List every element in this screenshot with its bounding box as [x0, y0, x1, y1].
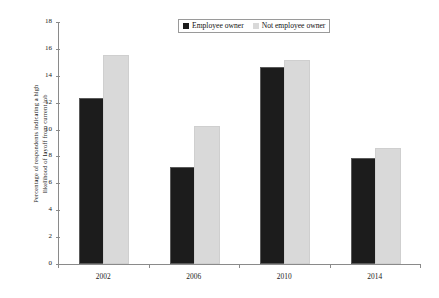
x-axis-label-2006: 2006 — [186, 272, 201, 281]
y-axis-tick-label: 4 — [49, 205, 53, 213]
legend-item-not-employee-owner: Not employee owner — [253, 21, 326, 30]
y-axis-tick: 16 — [56, 49, 60, 50]
y-axis-tick-label: 8 — [49, 151, 53, 159]
legend-item-employee-owner: Employee owner — [183, 21, 244, 30]
y-axis-tick-label: 16 — [45, 44, 52, 52]
legend-label-not-employee-owner: Not employee owner — [262, 21, 326, 30]
y-axis-tick: 12 — [56, 103, 60, 104]
y-axis-tick: 18 — [56, 22, 60, 23]
bar-2010-series-1 — [284, 60, 310, 264]
bar-2014-series-0 — [351, 158, 377, 264]
light-gray-square-icon — [253, 23, 259, 29]
x-axis-label-2002: 2002 — [96, 272, 111, 281]
x-axis-tick — [239, 264, 240, 268]
y-axis-tick: 8 — [56, 156, 60, 157]
x-axis-tick — [58, 264, 59, 268]
y-axis-tick-label: 10 — [45, 125, 52, 133]
x-axis-tick — [330, 264, 331, 268]
black-square-icon — [183, 23, 189, 29]
bar-2002-series-1 — [103, 55, 129, 264]
y-axis-title: Percentage of respondents indicating a h… — [32, 36, 49, 251]
bar-2014-series-1 — [375, 148, 401, 264]
bar-chart: Percentage of respondents indicating a h… — [0, 0, 439, 298]
y-axis-tick: 10 — [56, 130, 60, 131]
bar-2006-series-1 — [194, 126, 220, 264]
y-axis-tick-label: 6 — [49, 178, 53, 186]
x-axis-label-2010: 2010 — [277, 272, 292, 281]
y-axis-line — [58, 22, 59, 264]
x-axis-label-2014: 2014 — [367, 272, 382, 281]
legend-label-employee-owner: Employee owner — [192, 21, 244, 30]
x-axis-tick — [420, 264, 421, 268]
y-axis-tick-label: 18 — [45, 17, 52, 25]
plot-area: 0246810121416182002200620102014 — [58, 22, 420, 264]
y-axis-title-line-2: likelihood of layoff from current job — [41, 36, 50, 251]
chart-legend: Employee owner Not employee owner — [178, 19, 330, 33]
y-axis-tick-label: 0 — [49, 259, 53, 267]
bar-2006-series-0 — [170, 167, 196, 264]
y-axis-tick: 6 — [56, 183, 60, 184]
y-axis-tick-label: 14 — [45, 71, 52, 79]
y-axis-tick: 2 — [56, 237, 60, 238]
y-axis-tick: 14 — [56, 76, 60, 77]
y-axis-tick-label: 2 — [49, 232, 53, 240]
bar-2002-series-0 — [79, 98, 105, 264]
bar-2010-series-0 — [260, 67, 286, 264]
y-axis-tick-label: 12 — [45, 98, 52, 106]
y-axis-tick: 4 — [56, 210, 60, 211]
y-axis-title-line-1: Percentage of respondents indicating a h… — [32, 36, 41, 251]
x-axis-tick — [149, 264, 150, 268]
